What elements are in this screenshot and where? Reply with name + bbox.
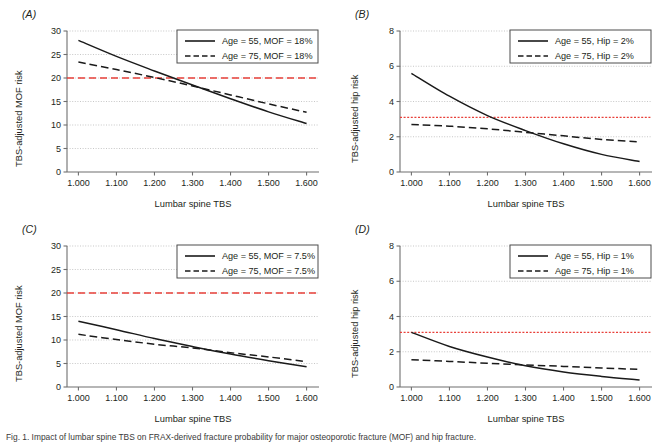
x-tick-label: 1.600 <box>295 178 318 188</box>
x-tick-label: 1.300 <box>181 178 204 188</box>
x-tick-label: 1.300 <box>514 178 537 188</box>
x-tick-label: 1.100 <box>105 178 128 188</box>
series-line <box>411 360 639 370</box>
legend-label: Age = 55, Hip = 2% <box>555 36 634 46</box>
plot-area-c: 0510152025301.0001.1001.2001.3001.4001.5… <box>0 215 334 435</box>
y-tick-label: 25 <box>51 50 61 60</box>
y-tick-label: 15 <box>51 97 61 107</box>
x-tick-label: 1.000 <box>400 178 423 188</box>
legend: Age = 55, MOF = 18%Age = 75, MOF = 18% <box>177 30 318 63</box>
y-tick-label: 0 <box>56 382 61 392</box>
x-tick-label: 1.300 <box>514 393 537 403</box>
series-line <box>78 62 306 112</box>
y-tick-label: 25 <box>51 265 61 275</box>
x-tick-label: 1.000 <box>67 393 90 403</box>
y-tick-label: 30 <box>51 26 61 36</box>
x-tick-label: 1.400 <box>552 393 575 403</box>
legend-label: Age = 55, Hip = 1% <box>555 251 634 261</box>
y-tick-label: 0 <box>56 167 61 177</box>
x-tick-label: 1.400 <box>219 393 242 403</box>
legend: Age = 55, Hip = 2%Age = 75, Hip = 2% <box>510 30 651 63</box>
x-tick-label: 1.500 <box>257 393 280 403</box>
legend: Age = 55, Hip = 1%Age = 75, Hip = 1% <box>510 245 651 278</box>
y-tick-label: 5 <box>56 359 61 369</box>
x-tick-label: 1.200 <box>476 178 499 188</box>
y-tick-label: 8 <box>389 26 394 36</box>
y-tick-label: 20 <box>51 73 61 83</box>
y-tick-label: 2 <box>389 132 394 142</box>
x-tick-label: 1.500 <box>590 178 613 188</box>
figure-caption: Fig. 1. Impact of lumbar spine TBS on FR… <box>6 432 666 443</box>
x-tick-label: 1.100 <box>105 393 128 403</box>
chart-panel-c: (C) TBS-adjusted MOF risk Lumbar spine T… <box>0 215 334 435</box>
x-tick-label: 1.000 <box>400 393 423 403</box>
legend-label: Age = 75, MOF = 7.5% <box>222 266 315 276</box>
plot-area-a: 0510152025301.0001.1001.2001.3001.4001.5… <box>0 0 334 220</box>
y-tick-label: 5 <box>56 144 61 154</box>
plot-area-b: 024681.0001.1001.2001.3001.4001.5001.600… <box>333 0 667 220</box>
x-tick-label: 1.200 <box>476 393 499 403</box>
x-tick-label: 1.600 <box>628 178 651 188</box>
y-tick-label: 6 <box>389 61 394 71</box>
x-tick-label: 1.200 <box>143 393 166 403</box>
y-tick-label: 15 <box>51 312 61 322</box>
y-tick-label: 10 <box>51 120 61 130</box>
y-tick-label: 30 <box>51 241 61 251</box>
x-tick-label: 1.100 <box>438 393 461 403</box>
x-tick-label: 1.500 <box>257 178 280 188</box>
y-tick-label: 4 <box>389 312 394 322</box>
chart-panel-b: (B) TBS-adjusted hip risk Lumbar spine T… <box>333 0 667 220</box>
y-tick-label: 4 <box>389 97 394 107</box>
y-tick-label: 6 <box>389 276 394 286</box>
y-tick-label: 20 <box>51 288 61 298</box>
y-tick-label: 0 <box>389 382 394 392</box>
y-tick-label: 8 <box>389 241 394 251</box>
y-tick-label: 0 <box>389 167 394 177</box>
y-tick-label: 2 <box>389 347 394 357</box>
series-line <box>411 332 639 380</box>
chart-panel-d: (D) TBS-adjusted hip risk Lumbar spine T… <box>333 215 667 435</box>
x-tick-label: 1.500 <box>590 393 613 403</box>
legend-label: Age = 75, Hip = 1% <box>555 266 634 276</box>
y-tick-label: 10 <box>51 335 61 345</box>
chart-panel-a: (A) TBS-adjusted MOF risk Lumbar spine T… <box>0 0 334 220</box>
x-tick-label: 1.300 <box>181 393 204 403</box>
legend-label: Age = 55, MOF = 7.5% <box>222 251 315 261</box>
x-tick-label: 1.600 <box>295 393 318 403</box>
legend-label: Age = 75, Hip = 2% <box>555 51 634 61</box>
series-line <box>78 334 306 361</box>
series-line <box>411 124 639 142</box>
x-tick-label: 1.400 <box>219 178 242 188</box>
series-line <box>78 321 306 367</box>
x-tick-label: 1.100 <box>438 178 461 188</box>
x-tick-label: 1.600 <box>628 393 651 403</box>
legend-label: Age = 75, MOF = 18% <box>222 51 312 61</box>
legend-label: Age = 55, MOF = 18% <box>222 36 312 46</box>
x-tick-label: 1.200 <box>143 178 166 188</box>
x-tick-label: 1.400 <box>552 178 575 188</box>
legend: Age = 55, MOF = 7.5%Age = 75, MOF = 7.5% <box>177 245 318 278</box>
x-tick-label: 1.000 <box>67 178 90 188</box>
plot-area-d: 024681.0001.1001.2001.3001.4001.5001.600… <box>333 215 667 435</box>
